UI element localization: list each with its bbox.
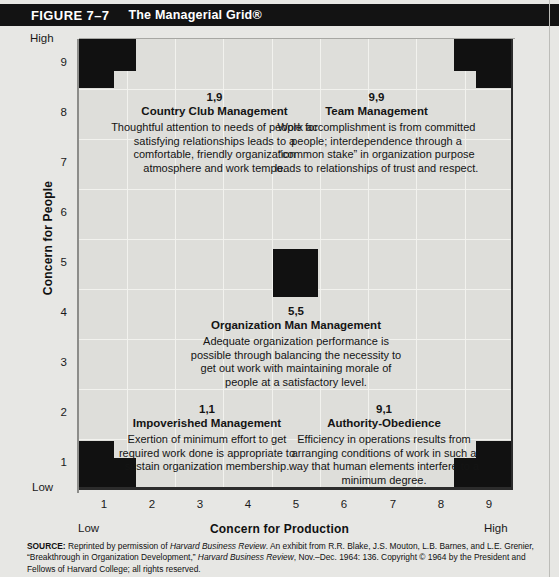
quadrant-description: Exertion of minimum effort to get requir… xyxy=(107,433,307,474)
y-axis-tick-8: 8 xyxy=(47,106,67,118)
x-axis-tick-6: 6 xyxy=(334,498,354,510)
source-note: SOURCE: Reprinted by permission of Harva… xyxy=(27,541,539,575)
marker-1-9-part xyxy=(79,39,136,71)
source-text-b: . An exhibit from R.R. Blake, J.S. Mouto… xyxy=(266,541,534,551)
quadrant-1-1: 1,1 Impoverished Management Exertion of … xyxy=(107,402,307,474)
figure-number: FIGURE 7–7 xyxy=(31,8,109,23)
quadrant-name: Team Management xyxy=(269,104,484,119)
x-axis-title: Concern for Production xyxy=(0,522,559,536)
quadrant-description: Work accomplishment is from committed pe… xyxy=(269,121,484,175)
source-text-a: Reprinted by permission of xyxy=(66,541,170,551)
quadrant-description: Adequate organization performance is pos… xyxy=(186,335,406,389)
y-axis-high-label: High xyxy=(30,32,54,44)
marker-9-9-part xyxy=(454,39,511,71)
quadrant-code: 9,9 xyxy=(269,90,484,104)
y-axis-tick-9: 9 xyxy=(47,56,67,68)
y-axis-low-label: Low xyxy=(32,481,53,493)
gridline-horizontal xyxy=(79,189,511,190)
y-axis-tick-7: 7 xyxy=(47,156,67,168)
x-axis-tick-3: 3 xyxy=(190,498,210,510)
source-text-e: Fellows of Harvard College; all rights r… xyxy=(27,564,201,574)
y-axis-tick-1: 1 xyxy=(47,456,67,468)
quadrant-description: Efficiency in operations results from ar… xyxy=(284,433,484,487)
quadrant-5-5: 5,5 Organization Man Management Adequate… xyxy=(186,304,406,389)
marker-9-9-part xyxy=(476,71,511,88)
quadrant-name: Authority-Obedience xyxy=(284,416,484,431)
grid-plot-inner: 1,9 Country Club Management Thoughtful a… xyxy=(79,39,511,487)
figure-page: FIGURE 7–7 The Managerial Grid® xyxy=(0,0,559,577)
source-text-d: , Nov.–Dec. 1964: 136. Copyright © 1964 … xyxy=(294,552,526,562)
quadrant-name: Organization Man Management xyxy=(186,318,406,333)
x-axis-tick-8: 8 xyxy=(431,498,451,510)
quadrant-9-9: 9,9 Team Management Work accomplishment … xyxy=(269,90,484,175)
x-axis-tick-5: 5 xyxy=(286,498,306,510)
source-journal-1: Harvard Business Review xyxy=(170,541,266,551)
figure-header-bar: FIGURE 7–7 The Managerial Grid® xyxy=(0,4,559,26)
figure-title: The Managerial Grid® xyxy=(128,8,261,22)
quadrant-code: 1,1 xyxy=(107,402,307,416)
y-axis-title: Concern for People xyxy=(41,168,55,308)
quadrant-name: Impoverished Management xyxy=(107,416,307,431)
source-label: SOURCE: xyxy=(27,541,66,551)
chart-area: 1,9 Country Club Management Thoughtful a… xyxy=(0,26,559,531)
y-axis-tick-2: 2 xyxy=(47,406,67,418)
x-axis-tick-2: 2 xyxy=(142,498,162,510)
x-axis-tick-7: 7 xyxy=(383,498,403,510)
quadrant-code: 9,1 xyxy=(284,402,484,416)
x-axis-tick-4: 4 xyxy=(238,498,258,510)
y-axis-tick-3: 3 xyxy=(47,356,67,368)
quadrant-9-1: 9,1 Authority-Obedience Efficiency in op… xyxy=(284,402,484,487)
source-journal-2: Harvard Business Review xyxy=(198,552,294,562)
quadrant-code: 5,5 xyxy=(186,304,406,318)
page-edge xyxy=(549,0,550,577)
x-axis-tick-9: 9 xyxy=(479,498,499,510)
marker-5-5 xyxy=(273,249,318,297)
source-text-c: “Breakthrough in Organization Developmen… xyxy=(27,552,198,562)
marker-1-9-part xyxy=(79,71,114,88)
grid-plot: 1,9 Country Club Management Thoughtful a… xyxy=(79,39,513,490)
x-axis-tick-1: 1 xyxy=(94,498,114,510)
gridline-horizontal xyxy=(79,239,511,240)
